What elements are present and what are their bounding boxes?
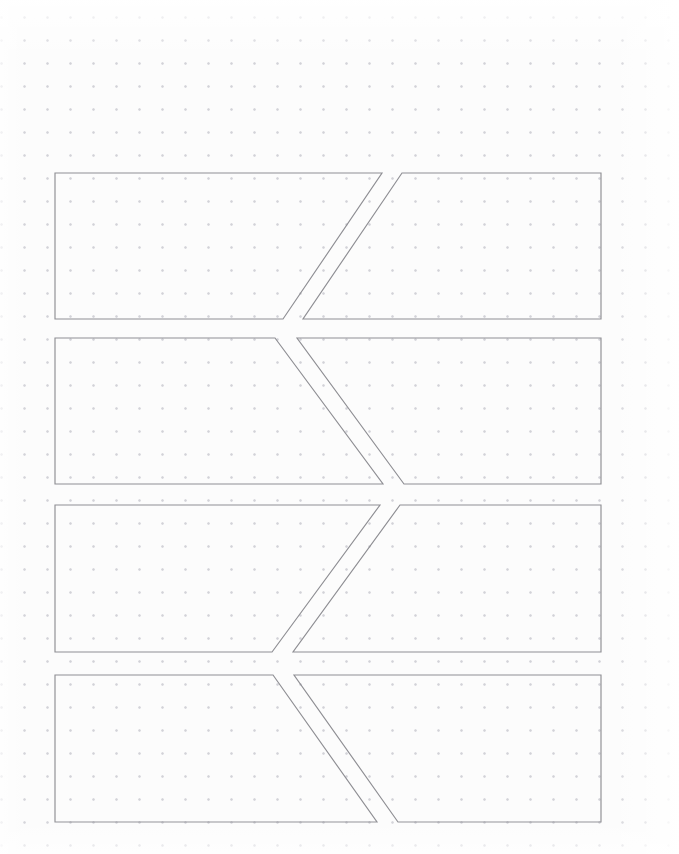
band-2-left-piece[interactable] [55, 338, 383, 484]
banner-band-4 [55, 675, 601, 822]
band-3-right-piece[interactable] [293, 505, 601, 652]
banner-band-3 [55, 505, 601, 652]
band-4-right-piece[interactable] [294, 675, 601, 822]
band-4-left-piece[interactable] [55, 675, 377, 822]
banner-band-1 [55, 173, 601, 319]
sketch-layer [0, 0, 679, 854]
band-1-right-piece[interactable] [303, 173, 601, 319]
band-1-left-piece[interactable] [55, 173, 382, 319]
notebook-page [0, 0, 679, 854]
band-2-right-piece[interactable] [297, 338, 601, 484]
band-3-left-piece[interactable] [55, 505, 380, 652]
banner-band-2 [55, 338, 601, 484]
banner-ribbon-sketch [0, 0, 679, 854]
